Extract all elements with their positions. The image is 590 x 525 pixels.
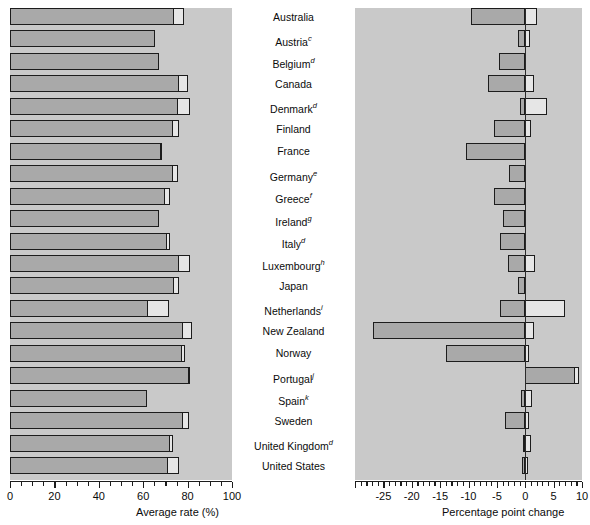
x-axis-major-tick xyxy=(440,482,441,488)
x-axis-tick-label: 100 xyxy=(207,490,257,502)
x-axis-minor-tick xyxy=(531,482,532,486)
x-axis-minor-tick xyxy=(165,482,166,486)
bar-segment-main xyxy=(373,322,525,339)
category-label: Norway xyxy=(232,347,355,359)
x-axis-minor-tick xyxy=(77,482,78,486)
x-axis-minor-tick xyxy=(520,482,521,486)
x-axis-minor-tick xyxy=(486,482,487,486)
x-axis-minor-tick xyxy=(446,482,447,486)
category-label: Austriac xyxy=(232,33,355,48)
x-axis-tick-label: 40 xyxy=(74,490,124,502)
x-axis-minor-tick xyxy=(361,482,362,486)
x-axis-minor-tick xyxy=(121,482,122,486)
x-axis-minor-tick xyxy=(400,482,401,486)
x-axis-minor-tick xyxy=(451,482,452,486)
bar-segment-main xyxy=(10,390,147,407)
category-label: Greecef xyxy=(232,190,355,205)
bar-segment-main xyxy=(505,412,525,429)
x-axis-major-tick xyxy=(525,482,526,488)
x-axis-minor-tick xyxy=(463,482,464,486)
bar-segment-main xyxy=(471,8,525,25)
bar-segment-main xyxy=(508,255,525,272)
x-axis-minor-tick xyxy=(565,482,566,486)
x-axis-minor-tick xyxy=(508,482,509,486)
x-axis-minor-tick xyxy=(366,482,367,486)
bar-segment-main xyxy=(509,165,525,182)
category-label: Belgiumd xyxy=(232,55,355,70)
zero-reference-line xyxy=(525,8,526,480)
x-axis-minor-tick xyxy=(221,482,222,486)
category-label: Spaink xyxy=(232,392,355,407)
bar-segment-main xyxy=(10,98,178,115)
x-axis-major-tick xyxy=(10,482,11,488)
bar-segment-main xyxy=(10,300,148,317)
x-axis-minor-tick xyxy=(474,482,475,486)
x-axis-minor-tick xyxy=(514,482,515,486)
bar-segment-main xyxy=(10,53,159,70)
x-axis-title-left: Average rate (%) xyxy=(136,506,219,518)
x-axis-minor-tick xyxy=(154,482,155,486)
x-axis-minor-tick xyxy=(210,482,211,486)
bar-segment-main xyxy=(500,233,526,250)
bar-segment-main xyxy=(494,120,525,137)
x-axis-minor-tick xyxy=(571,482,572,486)
percentage-point-change-plot-area xyxy=(355,8,582,480)
category-label: Finland xyxy=(232,123,355,135)
x-axis-minor-tick xyxy=(491,482,492,486)
category-label: Luxembourgh xyxy=(232,257,355,272)
bar-segment-main xyxy=(494,188,525,205)
x-axis-minor-tick xyxy=(66,482,67,486)
bar-segment-main xyxy=(10,457,168,474)
x-axis-minor-tick xyxy=(503,482,504,486)
category-label: United States xyxy=(232,460,355,472)
category-label: Irelandg xyxy=(232,213,355,228)
category-label: Netherlandsi xyxy=(232,302,355,317)
bar-segment-main xyxy=(10,120,173,137)
category-label: Canada xyxy=(232,78,355,90)
x-axis-minor-tick xyxy=(32,482,33,486)
x-axis-minor-tick xyxy=(395,482,396,486)
bar-segment-main xyxy=(10,30,155,47)
x-axis-minor-tick xyxy=(406,482,407,486)
x-axis-minor-tick xyxy=(576,482,577,486)
x-axis-minor-tick xyxy=(199,482,200,486)
bar-segment-main xyxy=(10,367,189,384)
category-label: Germanye xyxy=(232,168,355,183)
x-axis-minor-tick xyxy=(21,482,22,486)
bar-segment-main xyxy=(518,30,525,47)
bar-segment-main xyxy=(525,367,575,384)
bar-segment-main xyxy=(10,277,174,294)
category-label: New Zealand xyxy=(232,325,355,337)
x-axis-minor-tick xyxy=(559,482,560,486)
bar-segment-main xyxy=(10,345,182,362)
x-axis-title-right: Percentage point change xyxy=(442,506,564,518)
x-axis-minor-tick xyxy=(43,482,44,486)
bar-segment-main xyxy=(503,210,526,227)
x-axis-tick-label: 60 xyxy=(118,490,168,502)
category-label: Australia xyxy=(232,11,355,23)
bar-segment-main xyxy=(10,233,167,250)
x-axis-major-tick xyxy=(54,482,55,488)
x-axis-minor-tick xyxy=(177,482,178,486)
bar-segment-main xyxy=(10,75,179,92)
x-axis-minor-tick xyxy=(423,482,424,486)
bar-segment-main xyxy=(466,143,526,160)
bar-segment-main xyxy=(10,165,173,182)
bar-segment-main xyxy=(10,435,170,452)
x-axis-minor-tick xyxy=(457,482,458,486)
bar-segment-main xyxy=(10,412,183,429)
x-axis-major-tick xyxy=(143,482,144,488)
x-axis-minor-tick xyxy=(417,482,418,486)
x-axis-minor-tick xyxy=(542,482,543,486)
x-axis-minor-tick xyxy=(434,482,435,486)
bar-segment-main xyxy=(10,188,165,205)
x-axis-major-tick xyxy=(554,482,555,488)
bar-segment-main xyxy=(518,277,525,294)
x-axis-major-tick xyxy=(383,482,384,488)
category-label: Portugalj xyxy=(232,370,355,385)
x-axis-minor-tick xyxy=(110,482,111,486)
x-axis-major-tick xyxy=(232,482,233,488)
x-axis-tick-label: 10 xyxy=(557,490,590,502)
category-label: Sweden xyxy=(232,415,355,427)
bar-segment-main xyxy=(10,8,174,25)
